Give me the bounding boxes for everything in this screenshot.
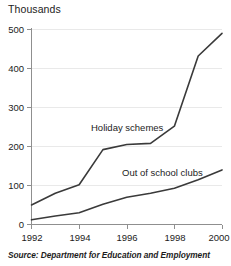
line-chart-plot: 500 400 300 200 100 0 1992 1994 1996 199…: [0, 0, 231, 266]
x-tick-label-2000: 2000: [208, 232, 229, 243]
y-tick-marks: [27, 30, 31, 225]
source-note: Source: Department for Education and Emp…: [8, 250, 210, 261]
gridlines: [31, 30, 222, 186]
series-annotation-out-of-school-clubs: Out of school clubs: [122, 167, 203, 178]
series-annotation-holiday-schemes: Holiday schemes: [91, 122, 164, 133]
y-tick-label-500: 500: [8, 24, 24, 35]
x-tick-label-1994: 1994: [69, 232, 90, 243]
y-tick-label-100: 100: [8, 180, 24, 191]
x-tick-label-1998: 1998: [164, 232, 185, 243]
x-tick-marks: [32, 225, 223, 230]
series-line-holiday-schemes: [32, 33, 223, 205]
x-tick-label-1996: 1996: [116, 232, 137, 243]
y-tick-labels: 500 400 300 200 100 0: [8, 24, 24, 230]
chart-figure: Thousands: [0, 0, 231, 266]
y-tick-label-200: 200: [8, 141, 24, 152]
y-tick-label-300: 300: [8, 102, 24, 113]
x-tick-labels: 1992 1994 1996 1998 2000: [21, 232, 229, 243]
x-tick-label-1992: 1992: [21, 232, 42, 243]
y-tick-label-400: 400: [8, 63, 24, 74]
y-tick-label-0: 0: [19, 219, 24, 230]
